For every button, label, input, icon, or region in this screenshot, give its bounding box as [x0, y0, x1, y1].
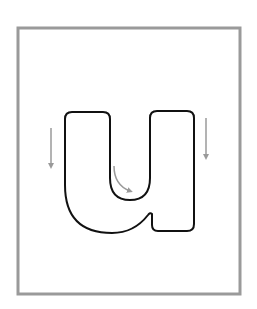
worksheet-canvas — [0, 0, 257, 309]
letter-tracing-worksheet: Letter u tracing card u — [0, 0, 257, 309]
